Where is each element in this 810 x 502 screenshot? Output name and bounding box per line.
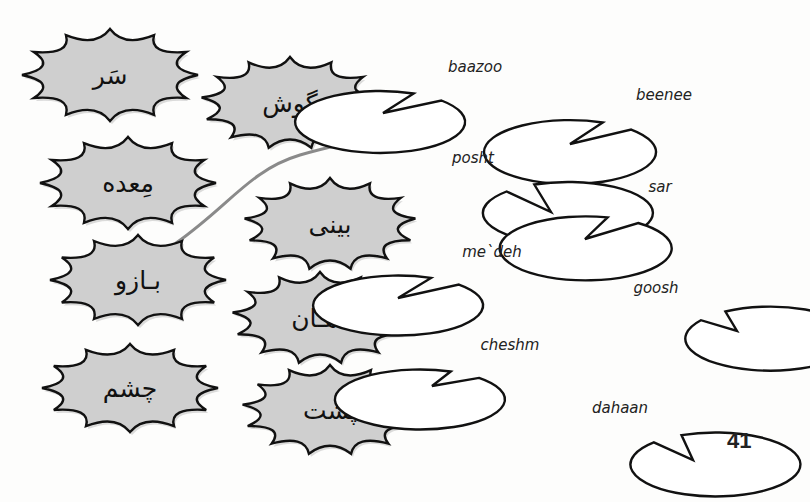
persian-word-burst-cheshm[interactable]: چشم [42, 344, 218, 432]
transliteration-label: dahaan [535, 381, 705, 435]
page-number: 41 [727, 428, 751, 454]
persian-word-burst-sar[interactable]: سَر [22, 29, 198, 121]
persian-word-label: سَر [22, 29, 198, 121]
persian-word-label: بـازو [50, 235, 226, 325]
persian-word-burst-baazoo[interactable]: بـازو [50, 235, 226, 325]
persian-word-label: مِعده [40, 137, 216, 229]
persian-word-burst-meadeh[interactable]: مِعده [40, 137, 216, 229]
transliteration-bubble-dahaan[interactable]: dahaan [475, 321, 765, 502]
persian-word-label: چشم [42, 344, 218, 432]
